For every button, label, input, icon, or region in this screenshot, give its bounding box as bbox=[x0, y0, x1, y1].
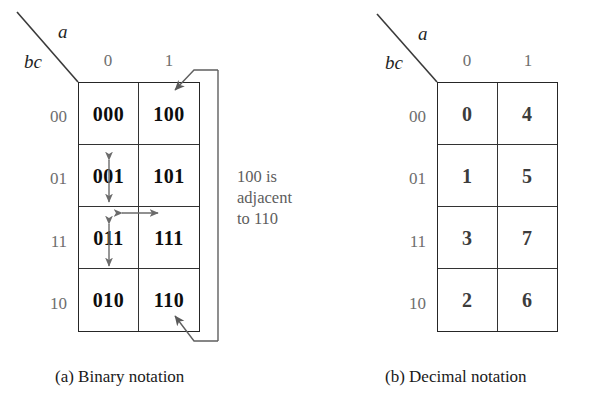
caption-binary-notation: (a) Binary notation bbox=[55, 368, 184, 385]
kmap-cell-decimal-r1c1[interactable]: 5 bbox=[498, 145, 558, 207]
kmap-cell-decimal-r2c1[interactable]: 7 bbox=[498, 207, 558, 269]
annotation-line-3: to 110 bbox=[237, 208, 292, 229]
kmap-cell-value: 110 bbox=[154, 290, 184, 310]
kmap-cell-decimal-r1c0[interactable]: 1 bbox=[438, 145, 498, 207]
row-header-decimal-00: 00 bbox=[392, 108, 426, 125]
variable-label-bc-decimal: bc bbox=[385, 53, 403, 72]
kmap-cell-value: 101 bbox=[153, 166, 185, 186]
kmap-cell-value: 100 bbox=[153, 104, 185, 124]
row-header-binary-00: 00 bbox=[33, 108, 67, 125]
row-header-decimal-01: 01 bbox=[392, 170, 426, 187]
kmap-cell-value: 3 bbox=[462, 228, 473, 248]
kmap-cell-value: 0 bbox=[462, 104, 473, 124]
col-header-binary-1: 1 bbox=[154, 52, 184, 69]
variable-label-a-decimal: a bbox=[418, 24, 428, 43]
axis-diagonal-line-decimal bbox=[372, 8, 452, 90]
kmap-cell-binary-r0c0[interactable]: 000 bbox=[79, 83, 139, 145]
kmap-cell-value: 5 bbox=[522, 166, 533, 186]
row-header-decimal-11: 11 bbox=[392, 233, 426, 250]
row-header-decimal-10: 10 bbox=[392, 295, 426, 312]
col-header-binary-0: 0 bbox=[93, 52, 123, 69]
variable-label-bc-binary: bc bbox=[24, 52, 42, 71]
kmap-cell-value: 010 bbox=[93, 290, 125, 310]
kmap-cell-binary-r1c1[interactable]: 101 bbox=[139, 145, 199, 207]
variable-label-a-binary: a bbox=[58, 22, 68, 41]
annotation-line-2: adjacent bbox=[237, 187, 292, 208]
kmap-cell-value: 001 bbox=[93, 166, 125, 186]
kmap-cell-decimal-r3c1[interactable]: 6 bbox=[498, 269, 558, 331]
kmap-cell-decimal-r0c1[interactable]: 4 bbox=[498, 83, 558, 145]
kmap-cell-decimal-r2c0[interactable]: 3 bbox=[438, 207, 498, 269]
annotation-line-1: 100 is bbox=[237, 166, 292, 187]
kmap-cell-binary-r3c0[interactable]: 010 bbox=[79, 269, 139, 331]
kmap-cell-binary-r0c1[interactable]: 100 bbox=[139, 83, 199, 145]
row-header-binary-10: 10 bbox=[33, 295, 67, 312]
kmap-cell-value: 7 bbox=[522, 228, 533, 248]
kmap-cell-value: 111 bbox=[154, 228, 183, 248]
kmap-cell-value: 2 bbox=[462, 290, 473, 310]
kmap-cell-value: 011 bbox=[93, 228, 123, 248]
row-header-binary-01: 01 bbox=[33, 170, 67, 187]
kmap-cell-binary-r2c1[interactable]: 111 bbox=[139, 207, 199, 269]
kmap-cell-binary-r1c0[interactable]: 001 bbox=[79, 145, 139, 207]
karnaugh-map-figure: a bc 0 1 00 01 11 10 000 100 001 101 011 bbox=[0, 0, 596, 406]
axis-diagonal-line-binary bbox=[10, 5, 90, 90]
kmap-cell-binary-r3c1[interactable]: 110 bbox=[139, 269, 199, 331]
kmap-grid-decimal: 0 4 1 5 3 7 2 6 bbox=[437, 82, 558, 332]
kmap-cell-binary-r2c0[interactable]: 011 bbox=[79, 207, 139, 269]
col-header-decimal-1: 1 bbox=[513, 52, 543, 69]
caption-decimal-notation: (b) Decimal notation bbox=[385, 368, 527, 385]
kmap-cell-decimal-r3c0[interactable]: 2 bbox=[438, 269, 498, 331]
kmap-cell-value: 1 bbox=[462, 166, 473, 186]
row-header-binary-11: 11 bbox=[33, 233, 67, 250]
col-header-decimal-0: 0 bbox=[452, 52, 482, 69]
kmap-cell-value: 4 bbox=[522, 104, 533, 124]
kmap-cell-value: 000 bbox=[93, 104, 125, 124]
kmap-cell-value: 6 bbox=[522, 290, 533, 310]
kmap-grid-binary: 000 100 001 101 011 111 010 110 bbox=[78, 82, 200, 332]
annotation-text-block: 100 is adjacent to 110 bbox=[237, 166, 292, 229]
kmap-cell-decimal-r0c0[interactable]: 0 bbox=[438, 83, 498, 145]
